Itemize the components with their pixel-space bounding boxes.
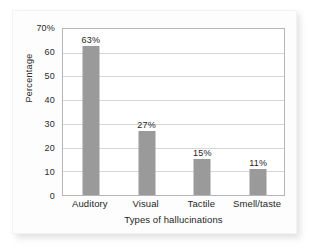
y-tick-label: 50 [45,71,55,81]
bar-value-label: 11% [249,158,267,168]
x-tick-label: Auditory [62,198,118,209]
bar-chart: Percentage 70% 60 50 40 30 20 10 0 63% [13,11,296,233]
y-tick-label: 10 [45,167,55,177]
y-tick-label: 70% [36,23,55,33]
bar-slot: 63% [63,29,119,195]
bar-value-label: 63% [82,35,101,45]
y-tick-label: 20 [45,143,55,153]
x-tick-label: Visual [118,198,174,209]
x-tick-label: Smell/taste [229,198,285,209]
y-axis-ticks: 70% 60 50 40 30 20 10 0 [13,28,59,196]
bar-value-label: 15% [193,148,212,158]
bar[interactable] [138,131,155,195]
y-tick-label: 40 [45,95,55,105]
bar[interactable] [194,159,211,195]
y-tick-label: 60 [45,47,55,57]
bar-value-label: 27% [137,120,156,130]
bar[interactable] [82,46,99,195]
y-tick-label: 30 [45,119,55,129]
figure-page: Percentage 70% 60 50 40 30 20 10 0 63% [0,0,311,250]
plot-area: 63% 27% 15% 11% [62,28,285,196]
y-tick-label: 0 [50,191,55,201]
x-axis-ticks: Auditory Visual Tactile Smell/taste [62,198,285,214]
x-tick-label: Tactile [174,198,230,209]
bar[interactable] [250,169,267,195]
bar-slot: 27% [119,29,175,195]
x-axis-title: Types of hallucinations [62,214,285,225]
bar-slot: 15% [175,29,231,195]
bar-slot: 11% [230,29,286,195]
